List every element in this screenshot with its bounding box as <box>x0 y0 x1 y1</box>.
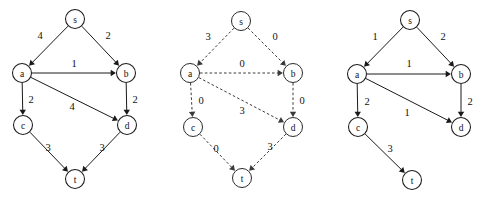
node-label-b: b <box>291 69 296 79</box>
edge-panel-left-a-c <box>22 83 23 112</box>
nodes-layer: sabcdtsabcdtsabcdt <box>13 10 471 190</box>
graph-canvas: sabcdtsabcdtsabcdt 421242333000300312121… <box>0 0 483 201</box>
node-label-s: s <box>408 16 412 26</box>
arrowhead-panel-middle-a-b <box>278 70 283 76</box>
arrowhead-panel-left-a-b <box>111 70 116 76</box>
arrowhead-panel-middle-s-b <box>280 60 286 66</box>
node-label-t: t <box>411 176 414 186</box>
edge-weight-panel-left-c-t: 3 <box>45 142 50 153</box>
edge-weight-panel-left-b-d: 2 <box>132 94 137 105</box>
arrowhead-panel-right-a-b <box>446 71 451 77</box>
edge-weight-panel-right-c-t: 3 <box>387 143 392 154</box>
node-label-s: s <box>73 15 77 25</box>
edge-panel-left-b-d <box>126 83 127 112</box>
node-panel-right-t: t <box>403 171 422 190</box>
node-panel-middle-c: c <box>184 118 203 137</box>
edge-weight-panel-middle-s-a: 3 <box>205 31 210 42</box>
edge-weight-panel-right-s-b: 2 <box>440 31 445 42</box>
edge-weight-panel-right-a-b: 1 <box>406 58 411 69</box>
arrowhead-panel-middle-a-c <box>189 112 195 117</box>
edge-panel-right-c-t <box>365 134 403 171</box>
edge-panel-right-a-c <box>357 84 358 114</box>
weights-layer: 42124233300030031212123 <box>28 30 472 154</box>
edge-weight-panel-left-s-b: 2 <box>105 30 110 41</box>
edge-panel-right-s-b <box>417 27 452 64</box>
edge-weight-panel-right-s-a: 1 <box>372 31 377 42</box>
node-panel-left-d: d <box>118 116 137 135</box>
node-panel-middle-b: b <box>284 64 303 83</box>
node-label-b: b <box>124 69 129 79</box>
node-label-c: c <box>356 123 360 133</box>
node-panel-right-b: b <box>452 65 471 84</box>
arrowhead-panel-right-a-c <box>355 112 361 117</box>
edge-panel-middle-s-a <box>199 28 234 64</box>
edge-weight-panel-right-a-d: 1 <box>404 107 409 118</box>
edge-weight-panel-left-d-t: 3 <box>99 142 104 153</box>
edge-weight-panel-left-a-b: 1 <box>71 58 76 69</box>
node-panel-right-s: s <box>401 11 420 30</box>
arrowhead-panel-middle-a-d <box>278 117 284 123</box>
node-panel-right-c: c <box>349 118 368 137</box>
node-label-t: t <box>74 175 77 185</box>
node-panel-right-d: d <box>452 118 471 137</box>
edge-weight-panel-left-s-a: 4 <box>37 30 43 41</box>
node-panel-right-a: a <box>348 65 367 84</box>
node-label-c: c <box>21 121 25 131</box>
node-panel-left-b: b <box>117 64 136 83</box>
node-label-s: s <box>239 17 243 27</box>
edges-layer <box>20 26 465 173</box>
node-panel-middle-s: s <box>232 12 251 31</box>
edge-weight-panel-middle-a-b: 0 <box>239 58 244 69</box>
edge-weight-panel-middle-d-t: 3 <box>267 141 272 152</box>
edge-panel-middle-a-c <box>191 83 193 114</box>
edge-weight-panel-left-a-d: 4 <box>69 101 75 112</box>
node-panel-middle-t: t <box>233 169 252 188</box>
node-label-b: b <box>459 70 464 80</box>
node-label-d: d <box>125 121 130 131</box>
node-panel-middle-a: a <box>181 64 200 83</box>
edge-panel-left-s-b <box>82 26 117 63</box>
arrowhead-panel-middle-b-d <box>290 112 296 117</box>
arrowhead-panel-left-b-d <box>124 110 130 115</box>
graph-figure: sabcdtsabcdtsabcdt 421242333000300312121… <box>0 0 483 201</box>
node-panel-left-s: s <box>66 10 85 29</box>
node-label-t: t <box>241 174 244 184</box>
edge-weight-panel-left-a-c: 2 <box>28 94 33 105</box>
node-label-c: c <box>191 123 195 133</box>
node-panel-left-c: c <box>14 116 33 135</box>
arrowhead-panel-right-b-d <box>458 112 464 117</box>
edge-weight-panel-middle-s-b: 0 <box>272 31 277 42</box>
edge-weight-panel-middle-a-d: 3 <box>239 105 244 116</box>
edge-panel-left-a-d <box>31 77 115 119</box>
node-panel-middle-d: d <box>284 118 303 137</box>
edge-panel-middle-s-b <box>248 28 284 64</box>
node-label-d: d <box>291 123 296 133</box>
node-label-d: d <box>459 123 464 133</box>
node-panel-left-a: a <box>13 64 32 83</box>
edge-weight-panel-middle-c-t: 0 <box>213 143 218 154</box>
arrowhead-panel-left-a-c <box>20 110 26 115</box>
edge-weight-panel-middle-a-c: 0 <box>198 95 203 106</box>
edge-weight-panel-right-a-c: 2 <box>364 96 369 107</box>
node-panel-left-t: t <box>66 170 85 189</box>
edge-weight-panel-right-b-d: 2 <box>467 96 472 107</box>
edge-weight-panel-middle-b-d: 0 <box>299 95 304 106</box>
